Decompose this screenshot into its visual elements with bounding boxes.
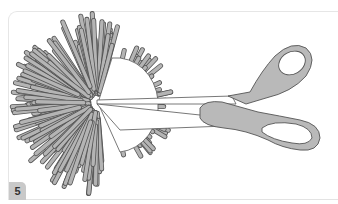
pompom-strand bbox=[37, 102, 83, 103]
step-number-badge: 5 bbox=[9, 182, 26, 200]
